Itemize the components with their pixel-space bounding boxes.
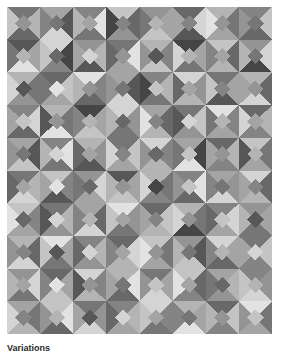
quilt-svg-canvas [7,7,272,334]
figure-caption: Variations [7,343,272,354]
figure-root: Variations [0,0,284,354]
quilt-pattern-image [7,7,272,334]
figure-caption-text: Variations [7,343,272,354]
quilt-cell-group [7,7,272,334]
